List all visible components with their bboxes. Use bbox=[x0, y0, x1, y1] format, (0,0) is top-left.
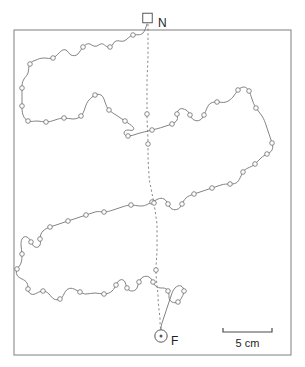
path-node-marker bbox=[151, 280, 156, 285]
path-node-marker bbox=[20, 252, 25, 257]
path-node-marker bbox=[81, 45, 86, 50]
homing-node-marker bbox=[145, 112, 150, 117]
path-node-marker bbox=[102, 210, 107, 215]
path-node-marker bbox=[114, 283, 119, 288]
figure-container: N F 5 cm bbox=[0, 0, 305, 367]
path-node-marker bbox=[93, 93, 98, 98]
food-label: F bbox=[171, 334, 178, 348]
path-node-marker bbox=[20, 104, 25, 109]
path-node-marker bbox=[166, 289, 171, 294]
node-marker-group bbox=[15, 33, 275, 305]
homing-node-marker bbox=[146, 142, 151, 147]
path-node-marker bbox=[38, 237, 43, 242]
path-node-marker bbox=[265, 152, 270, 157]
path-node-marker bbox=[180, 202, 185, 207]
arena-frame bbox=[14, 30, 291, 355]
path-node-marker bbox=[170, 122, 175, 127]
path-node-marker bbox=[236, 88, 241, 93]
path-node-marker bbox=[20, 86, 25, 91]
path-node-marker bbox=[137, 280, 142, 285]
path-node-marker bbox=[41, 289, 46, 294]
path-node-marker bbox=[210, 186, 215, 191]
path-node-marker bbox=[176, 300, 181, 305]
trajectory-figure: N F 5 cm bbox=[0, 0, 305, 367]
path-node-marker bbox=[188, 113, 193, 118]
path-node-marker bbox=[29, 240, 34, 245]
path-node-marker bbox=[131, 33, 136, 38]
path-node-marker bbox=[58, 297, 63, 302]
path-node-marker bbox=[108, 45, 113, 50]
path-node-marker bbox=[126, 134, 131, 139]
path-node-marker bbox=[123, 119, 128, 124]
outbound-foraging-path bbox=[16, 24, 273, 330]
nest-marker-square bbox=[143, 13, 153, 23]
path-node-marker bbox=[150, 128, 155, 133]
path-node-marker bbox=[253, 162, 258, 167]
path-node-marker bbox=[192, 192, 197, 197]
path-node-marker bbox=[15, 267, 20, 272]
path-node-marker bbox=[247, 89, 252, 94]
path-node-marker bbox=[107, 108, 112, 113]
path-node-marker bbox=[129, 203, 134, 208]
scalebar-bracket bbox=[223, 328, 272, 332]
path-node-marker bbox=[125, 286, 130, 291]
path-node-marker bbox=[51, 56, 56, 61]
path-node-marker bbox=[215, 100, 220, 105]
path-node-marker bbox=[175, 112, 180, 117]
nest-label: N bbox=[158, 16, 167, 30]
homing-node-marker bbox=[152, 201, 157, 206]
path-node-marker bbox=[182, 289, 187, 294]
homing-node-marker bbox=[154, 268, 159, 273]
path-node-marker bbox=[66, 219, 71, 224]
path-node-marker bbox=[48, 225, 53, 230]
path-node-marker bbox=[254, 106, 259, 111]
path-node-marker bbox=[26, 119, 31, 124]
path-node-marker bbox=[166, 202, 171, 207]
path-node-marker bbox=[241, 170, 246, 175]
food-marker-center-dot bbox=[160, 335, 163, 338]
path-node-marker bbox=[28, 62, 33, 67]
path-node-marker bbox=[78, 290, 83, 295]
path-node-marker bbox=[26, 287, 31, 292]
path-node-marker bbox=[84, 213, 89, 218]
path-node-marker bbox=[62, 116, 67, 121]
scalebar-label: 5 cm bbox=[236, 337, 260, 349]
path-node-marker bbox=[44, 120, 49, 125]
path-node-marker bbox=[102, 292, 107, 297]
path-node-marker bbox=[79, 114, 84, 119]
path-node-marker bbox=[228, 182, 233, 187]
path-node-marker bbox=[270, 141, 275, 146]
path-node-marker bbox=[202, 113, 207, 118]
